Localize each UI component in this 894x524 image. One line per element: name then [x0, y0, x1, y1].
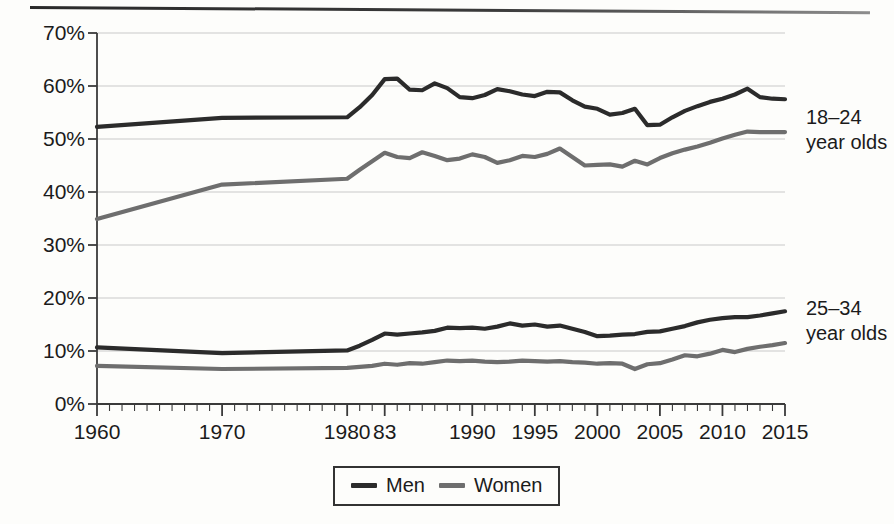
y-axis-tick-label: 40%: [11, 180, 85, 204]
legend-item-men[interactable]: Men: [351, 474, 425, 497]
legend-swatch-women: [439, 483, 465, 488]
x-axis-tick-label: 2015: [762, 420, 809, 444]
x-axis-tick-label: 1995: [511, 420, 558, 444]
annotation-25-34: 25–34 year olds: [806, 296, 887, 346]
y-axis-tick-label: 60%: [11, 74, 85, 98]
legend-swatch-men: [351, 483, 377, 488]
annotation-25-34-line1: 25–34: [806, 296, 887, 321]
plot-area: [97, 33, 785, 404]
x-axis-tick-label: 1960: [74, 420, 121, 444]
y-axis-tick-label: 50%: [11, 127, 85, 151]
page-top-rule: [30, 6, 870, 14]
chart-page: 0%10%20%30%40%50%60%70% 1960197019808319…: [0, 0, 894, 524]
legend-label-men: Men: [386, 474, 425, 497]
x-axis-tick-label: 83: [373, 420, 396, 444]
line-chart-svg: [97, 33, 785, 404]
x-axis-tick-label: 1990: [449, 420, 496, 444]
chart-legend: Men Women: [333, 466, 560, 506]
annotation-25-34-line2: year olds: [806, 321, 887, 346]
annotation-18-24: 18–24 year olds: [806, 105, 887, 155]
x-axis-tick-label: 1980: [324, 420, 371, 444]
x-axis-tick-label: 2005: [637, 420, 684, 444]
y-axis-tick-label: 10%: [11, 339, 85, 363]
legend-label-women: Women: [474, 474, 543, 497]
y-axis-tick-label: 0%: [11, 392, 85, 416]
y-axis-tick-label: 70%: [11, 21, 85, 45]
x-axis-tick-label: 1970: [199, 420, 246, 444]
y-axis-tick-label: 20%: [11, 286, 85, 310]
annotation-18-24-line1: 18–24: [806, 105, 887, 130]
x-axis-tick-label: 2010: [699, 420, 746, 444]
annotation-18-24-line2: year olds: [806, 130, 887, 155]
legend-item-women[interactable]: Women: [439, 474, 543, 497]
y-axis-tick-label: 30%: [11, 233, 85, 257]
x-axis-tick-label: 2000: [574, 420, 621, 444]
